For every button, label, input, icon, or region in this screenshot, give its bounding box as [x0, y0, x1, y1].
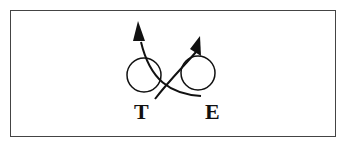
label-E: E — [205, 101, 220, 123]
arrowhead-icon — [133, 21, 145, 41]
label-T: T — [134, 101, 149, 123]
diagram-canvas — [0, 0, 349, 144]
right-circle — [181, 56, 215, 90]
